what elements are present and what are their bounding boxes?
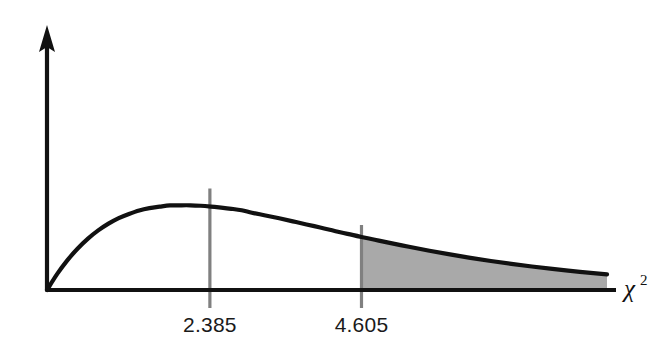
chi-square-distribution-figure: 2.385 4.605 χ 2: [0, 0, 665, 351]
tick-label-4605: 4.605: [335, 313, 389, 336]
chart-canvas: 2.385 4.605 χ 2: [0, 0, 665, 351]
x-axis-label-chi: χ: [622, 275, 636, 302]
tick-label-2385: 2.385: [183, 313, 237, 336]
x-axis-label-superscript: 2: [640, 272, 648, 288]
